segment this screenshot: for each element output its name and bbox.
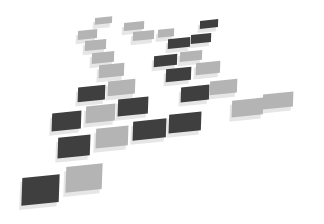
tile-dark xyxy=(200,19,218,29)
tile-light xyxy=(99,63,125,79)
tile-dark xyxy=(181,85,210,103)
tile-light xyxy=(196,61,221,75)
tile-face xyxy=(65,163,102,193)
tile-light xyxy=(108,79,136,97)
tile-face xyxy=(181,85,210,103)
tile-face xyxy=(263,91,294,109)
tile-face xyxy=(99,63,125,79)
tile-dark xyxy=(169,111,202,133)
tile-light xyxy=(92,51,115,64)
tile-light xyxy=(124,21,144,31)
tile-dark xyxy=(52,111,82,132)
tile-light xyxy=(95,16,112,25)
tile-face xyxy=(86,104,116,124)
tile-light xyxy=(180,50,203,62)
tile-face xyxy=(108,79,136,97)
tile-face xyxy=(96,125,129,148)
tile-light xyxy=(133,30,155,41)
tile-dark xyxy=(57,134,90,158)
tile-face xyxy=(52,111,82,132)
tile-light xyxy=(78,29,97,40)
tile-dark xyxy=(168,37,191,49)
tile-face xyxy=(78,85,106,103)
tile-dark xyxy=(191,33,212,44)
tile-light xyxy=(85,39,107,51)
tile-dark xyxy=(133,118,167,140)
tile-dark xyxy=(166,67,192,83)
tile-dark xyxy=(154,54,178,67)
tile-face xyxy=(133,118,167,140)
tile-light xyxy=(96,125,129,148)
tile-dark xyxy=(21,174,59,206)
tile-scene xyxy=(0,0,324,224)
tile-face xyxy=(232,97,264,117)
tile-face xyxy=(166,67,192,83)
tile-face xyxy=(169,111,202,133)
tile-light xyxy=(210,79,238,96)
tile-light xyxy=(86,104,116,124)
tile-dark xyxy=(118,96,149,116)
tile-face xyxy=(158,28,174,38)
tile-light xyxy=(158,28,174,38)
tile-face xyxy=(196,61,221,75)
tile-light xyxy=(232,97,264,117)
tile-light xyxy=(263,91,294,109)
tile-dark xyxy=(78,85,106,103)
tile-face xyxy=(57,134,90,158)
tile-face xyxy=(21,174,59,206)
tile-face xyxy=(92,51,115,64)
tile-light xyxy=(65,163,102,193)
tile-face xyxy=(118,96,149,116)
tile-face xyxy=(210,79,238,96)
